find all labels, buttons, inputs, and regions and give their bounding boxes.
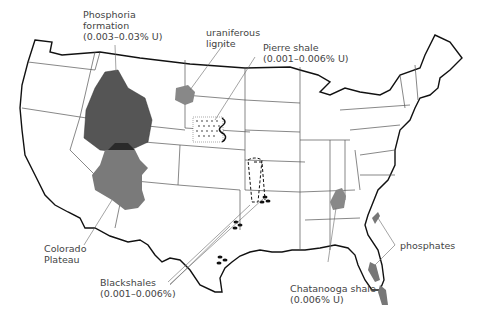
pierre-title: Pierre shale: [263, 42, 349, 53]
blackshale-dashed-region: [248, 158, 265, 202]
blackshales-concentration: (0.001–0.006%): [100, 288, 176, 299]
phosphates-title: phosphates: [400, 240, 455, 251]
chattanooga-title: Chatanooga shale: [290, 283, 376, 294]
phosphoria-subtitle: formation: [83, 20, 163, 31]
label-colorado: Colorado Plateau: [44, 243, 86, 265]
lignite-subtitle: lignite: [206, 38, 260, 49]
pierre-concentration: (0.001–0.006% U): [263, 53, 349, 64]
uraniferous-lignite-region: [175, 85, 195, 105]
chattanooga-shale-region: [330, 188, 346, 210]
label-blackshales: Blackshales (0.001–0.006%): [100, 277, 176, 299]
lignite-title: uraniferous: [206, 27, 260, 38]
label-pierre: Pierre shale (0.001–0.006% U): [263, 42, 349, 64]
chattanooga-concentration: (0.006% U): [290, 294, 376, 305]
colorado-subtitle: Plateau: [44, 254, 86, 265]
label-phosphoria: Phosphoria formation (0.003–0.03% U): [83, 9, 163, 42]
phosphoria-formation-region: [84, 70, 152, 152]
label-phosphates: phosphates: [400, 240, 455, 251]
phosphoria-concentration: (0.003–0.03% U): [83, 31, 163, 42]
label-lignite: uraniferous lignite: [206, 27, 260, 49]
uranium-deposits-map: Phosphoria formation (0.003–0.03% U) ura…: [0, 0, 478, 315]
label-chattanooga: Chatanooga shale (0.006% U): [290, 283, 376, 305]
blackshales-title: Blackshales: [100, 277, 176, 288]
phosphoria-title: Phosphoria: [83, 9, 163, 20]
colorado-plateau-region: [92, 150, 148, 210]
colorado-title: Colorado: [44, 243, 86, 254]
